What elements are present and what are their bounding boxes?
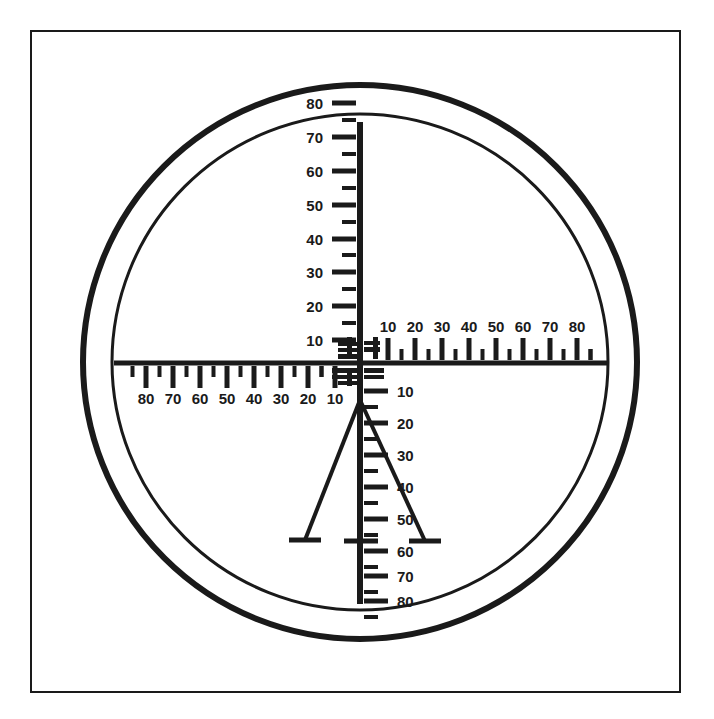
scale-label: 60 [192, 390, 209, 407]
scale-label: 20 [397, 415, 414, 432]
scale-label: 80 [569, 318, 586, 335]
scale-label: 40 [246, 390, 263, 407]
scale-label: 70 [306, 129, 323, 146]
scale-label: 20 [300, 390, 317, 407]
scale-label: 50 [397, 511, 414, 528]
center-graduation-bar [332, 375, 359, 379]
scale-label: 80 [138, 390, 155, 407]
scale-label: 30 [434, 318, 451, 335]
scale-label: 70 [165, 390, 182, 407]
reticle-canvas: 1020304050607080102030405060708010203040… [0, 0, 714, 719]
scale-label: 80 [397, 593, 414, 610]
scale-label: 60 [515, 318, 532, 335]
scale-label: 10 [380, 318, 397, 335]
scale-label: 10 [397, 383, 414, 400]
center-graduation-bar [347, 337, 352, 359]
scale-label: 60 [397, 543, 414, 560]
center-graduation-bar [332, 368, 359, 373]
scale-label: 50 [306, 197, 323, 214]
center-graduation-bar [373, 337, 378, 359]
center-graduation-bar [347, 368, 352, 386]
scale-label: 40 [306, 231, 323, 248]
scale-label: 40 [461, 318, 478, 335]
scale-label: 10 [327, 390, 344, 407]
scale-label: 50 [488, 318, 505, 335]
scale-label: 30 [273, 390, 290, 407]
scale-label: 20 [407, 318, 424, 335]
scale-label: 50 [219, 390, 236, 407]
scale-label: 70 [397, 568, 414, 585]
reticle-figure: 1020304050607080102030405060708010203040… [0, 0, 714, 719]
center-graduation-bar [364, 368, 384, 373]
scale-label: 10 [306, 332, 323, 349]
scale-label: 30 [306, 264, 323, 281]
scale-label: 80 [306, 95, 323, 112]
scale-label: 40 [397, 479, 414, 496]
scale-label: 70 [542, 318, 559, 335]
scale-label: 60 [306, 163, 323, 180]
scale-label: 20 [306, 298, 323, 315]
scale-label: 30 [397, 447, 414, 464]
center-graduation-bar [364, 375, 384, 379]
